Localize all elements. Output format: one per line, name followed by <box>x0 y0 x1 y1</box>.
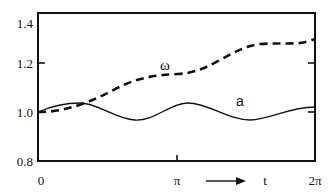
y-axis-ticks <box>38 63 45 112</box>
series-omega-label: ω <box>160 57 170 73</box>
y-tick-label-1.2: 1.2 <box>17 56 33 71</box>
plot-frame <box>38 13 315 161</box>
y-tick-label-1.4: 1.4 <box>17 16 34 31</box>
series-a-label: a <box>236 93 244 109</box>
x-tick-label-0: 0 <box>38 173 45 188</box>
y-axis-ticks-right <box>308 63 315 112</box>
x-axis-label: t <box>263 173 267 188</box>
y-tick-label-0.8: 0.8 <box>17 154 33 169</box>
y-tick-label-1.0: 1.0 <box>17 105 33 120</box>
x-tick-label-2pi: 2π <box>308 173 322 188</box>
x-axis-arrow-icon <box>206 177 246 185</box>
x-tick-label-pi: π <box>174 173 181 188</box>
series-omega-line <box>38 39 315 112</box>
line-chart: 1.4 1.2 1.0 0.8 0 π 2π t ω a <box>0 0 335 196</box>
